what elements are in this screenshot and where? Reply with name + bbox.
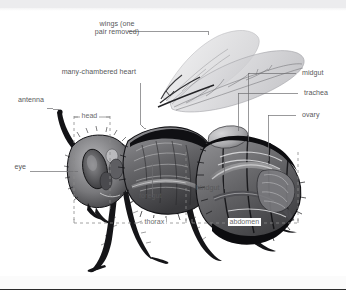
label-wings: wings (one pair removed) <box>86 20 148 37</box>
figure-page: wings (one pair removed) many-chambered … <box>0 0 346 292</box>
head-illustration <box>57 109 133 223</box>
label-many-chambered-heart: many-chambered heart <box>50 68 136 76</box>
label-thorax: thorax <box>143 218 166 226</box>
page-bottom-band <box>0 276 346 290</box>
page-bottom-rule <box>0 289 346 290</box>
label-antenna: antenna <box>6 96 44 104</box>
label-head: head <box>80 112 99 120</box>
label-abdomen: abdomen <box>228 218 261 226</box>
label-trachea: trachea <box>304 89 328 97</box>
label-eye: eye <box>6 163 26 171</box>
label-ovary: ovary <box>302 111 320 119</box>
label-midgut: midgut <box>302 69 324 77</box>
wings-illustration <box>158 30 304 111</box>
bee-anatomy-figure <box>0 11 346 277</box>
page-top-band <box>0 0 346 8</box>
label-hindgut: hindgut <box>196 184 220 192</box>
label-foregut: foregut <box>139 192 161 200</box>
